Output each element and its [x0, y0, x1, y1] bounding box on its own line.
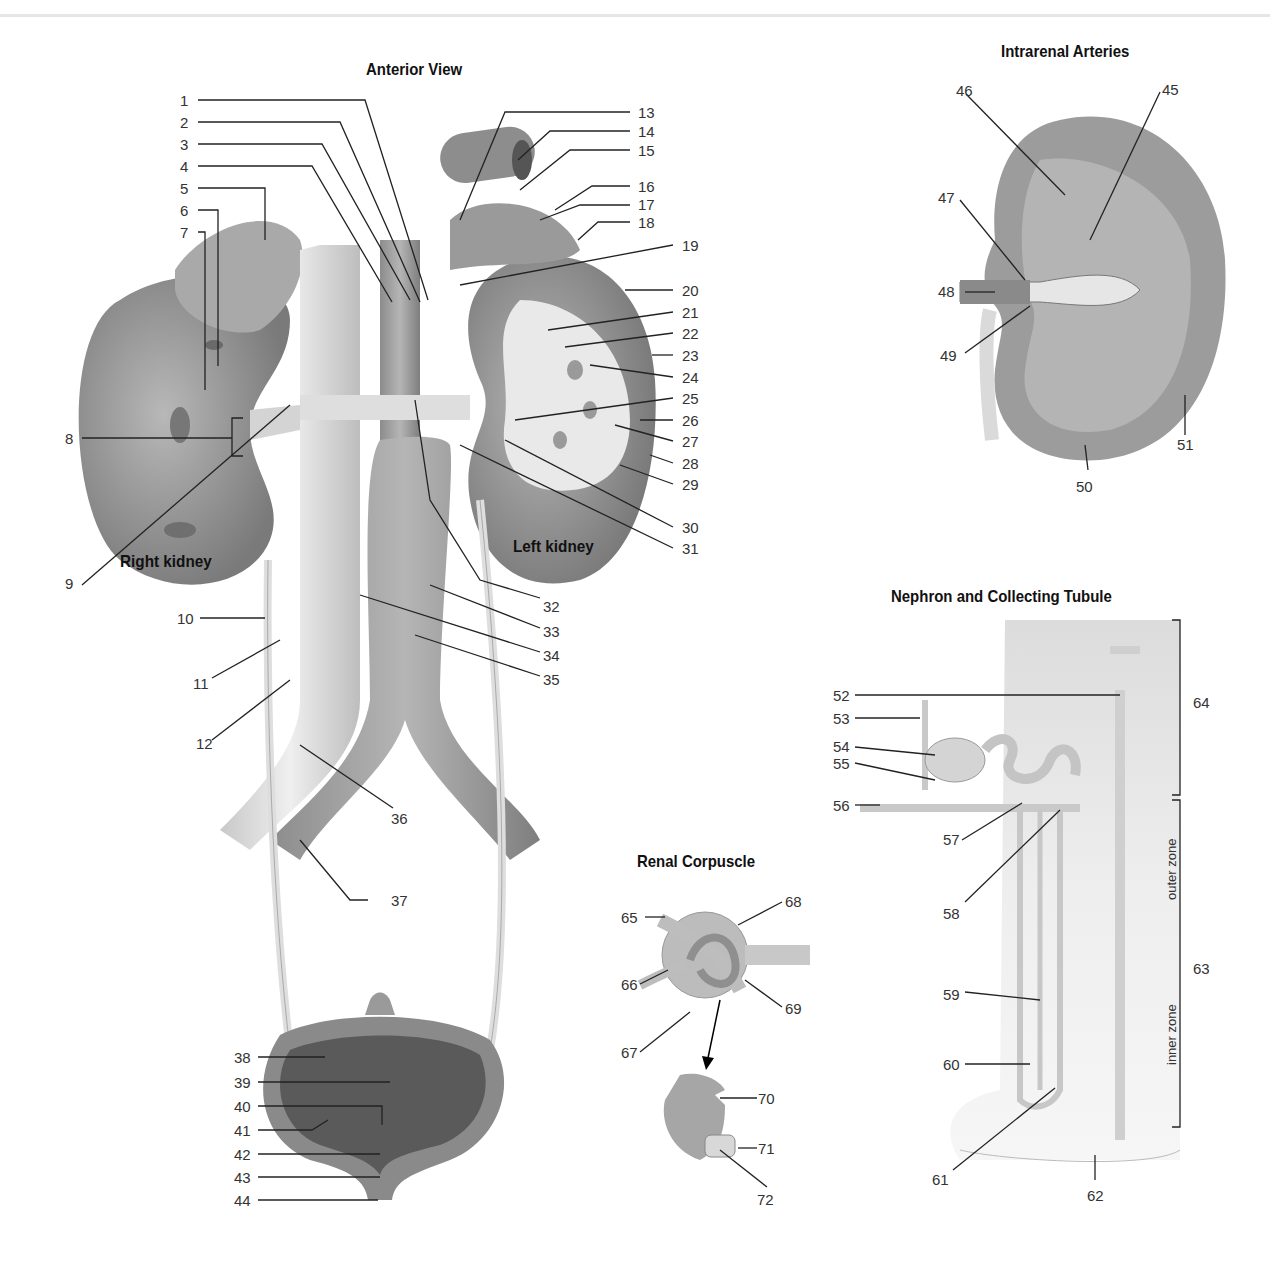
- label-20: 20: [682, 283, 699, 298]
- label-29: 29: [682, 477, 699, 492]
- label-24: 24: [682, 370, 699, 385]
- label-38: 38: [234, 1050, 251, 1065]
- label-21: 21: [682, 305, 699, 320]
- label-46: 46: [956, 83, 973, 98]
- label-54: 54: [833, 739, 850, 754]
- label-2: 2: [180, 115, 188, 130]
- label-57: 57: [943, 832, 960, 847]
- intrarenal-kidney-illustration: [960, 117, 1226, 461]
- label-17: 17: [638, 197, 655, 212]
- anatomy-illustration: [0, 0, 1270, 1263]
- label-13: 13: [638, 105, 655, 120]
- label-10: 10: [177, 611, 194, 626]
- left-kidney-label: Left kidney: [513, 537, 594, 557]
- label-11: 11: [193, 676, 209, 691]
- label-66: 66: [621, 977, 638, 992]
- label-31: 31: [682, 541, 699, 556]
- label-18: 18: [638, 215, 655, 230]
- label-49: 49: [940, 348, 957, 363]
- label-14: 14: [638, 124, 655, 139]
- label-28: 28: [682, 456, 699, 471]
- label-9: 9: [65, 576, 73, 591]
- nephron-illustration: [860, 620, 1180, 1162]
- label-15: 15: [638, 143, 655, 158]
- label-68: 68: [785, 894, 802, 909]
- label-64: 64: [1193, 695, 1210, 710]
- label-59: 59: [943, 987, 960, 1002]
- label-32: 32: [543, 599, 560, 614]
- label-72: 72: [757, 1192, 774, 1207]
- label-19: 19: [682, 238, 699, 253]
- label-23: 23: [682, 348, 699, 363]
- inner-zone-label: inner zone: [1164, 1004, 1179, 1065]
- label-69: 69: [785, 1001, 802, 1016]
- left-kidney-illustration: [468, 256, 656, 583]
- label-53: 53: [833, 711, 850, 726]
- label-36: 36: [391, 811, 408, 826]
- label-58: 58: [943, 906, 960, 921]
- label-4: 4: [180, 159, 188, 174]
- label-71: 71: [758, 1141, 775, 1156]
- bladder-illustration: [263, 993, 504, 1201]
- label-5: 5: [180, 181, 188, 196]
- label-45: 45: [1162, 82, 1179, 97]
- label-35: 35: [543, 672, 560, 687]
- label-8: 8: [65, 431, 73, 446]
- label-25: 25: [682, 391, 699, 406]
- label-33: 33: [543, 624, 560, 639]
- label-42: 42: [234, 1147, 251, 1162]
- outer-zone-label: outer zone: [1164, 839, 1179, 900]
- label-27: 27: [682, 434, 699, 449]
- label-63: 63: [1193, 961, 1210, 976]
- label-48: 48: [938, 284, 955, 299]
- label-6: 6: [180, 203, 188, 218]
- label-39: 39: [234, 1075, 251, 1090]
- label-26: 26: [682, 413, 699, 428]
- label-52: 52: [833, 688, 850, 703]
- title-anterior-view: Anterior View: [366, 60, 462, 80]
- label-55: 55: [833, 756, 850, 771]
- label-34: 34: [543, 648, 560, 663]
- label-70: 70: [758, 1091, 775, 1106]
- label-60: 60: [943, 1057, 960, 1072]
- label-30: 30: [682, 520, 699, 535]
- label-12: 12: [196, 736, 213, 751]
- label-65: 65: [621, 910, 638, 925]
- label-43: 43: [234, 1170, 251, 1185]
- label-1: 1: [180, 93, 188, 108]
- right-kidney-label: Right kidney: [120, 552, 212, 572]
- label-16: 16: [638, 179, 655, 194]
- label-61: 61: [932, 1172, 949, 1187]
- label-40: 40: [234, 1099, 251, 1114]
- label-44: 44: [234, 1193, 251, 1208]
- label-47: 47: [938, 190, 955, 205]
- right-kidney-illustration: [79, 221, 303, 585]
- label-50: 50: [1076, 479, 1093, 494]
- title-intrarenal-arteries: Intrarenal Arteries: [1001, 42, 1129, 62]
- label-41: 41: [234, 1123, 251, 1138]
- label-51: 51: [1177, 437, 1194, 452]
- label-22: 22: [682, 326, 699, 341]
- label-3: 3: [180, 137, 188, 152]
- renal-corpuscle-illustration: [640, 912, 810, 1160]
- title-renal-corpuscle: Renal Corpuscle: [637, 852, 755, 872]
- label-62: 62: [1087, 1188, 1104, 1203]
- label-7: 7: [180, 225, 188, 240]
- label-37: 37: [391, 893, 408, 908]
- title-nephron: Nephron and Collecting Tubule: [891, 587, 1112, 607]
- label-56: 56: [833, 798, 850, 813]
- label-67: 67: [621, 1045, 638, 1060]
